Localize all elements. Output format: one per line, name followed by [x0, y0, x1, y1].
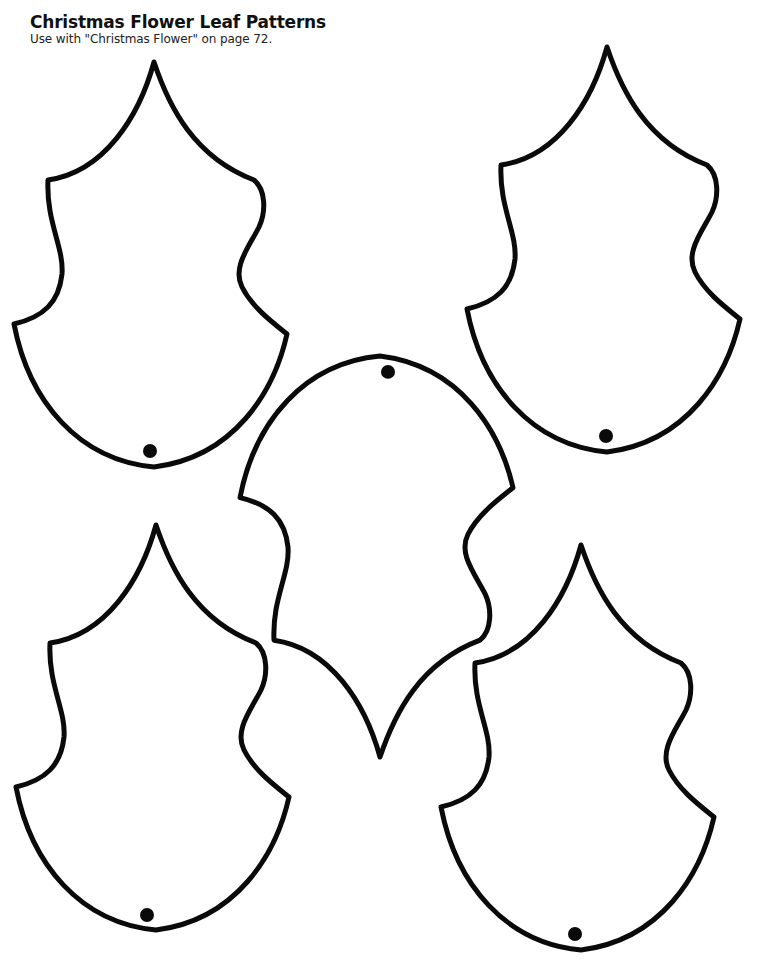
- hole-marker-icon: [140, 908, 154, 922]
- leaf-outline: [16, 525, 289, 930]
- leaf-center: [240, 356, 513, 757]
- hole-marker-icon: [568, 927, 582, 941]
- leaf-top-right: [467, 47, 740, 452]
- hole-marker-icon: [381, 365, 395, 379]
- leaf-outline: [467, 47, 740, 452]
- leaf-top-left: [14, 62, 287, 467]
- leaf-outline: [14, 62, 287, 467]
- hole-marker-icon: [143, 444, 157, 458]
- hole-marker-icon: [599, 429, 613, 443]
- leaf-outline: [240, 356, 513, 757]
- leaf-patterns-canvas: [0, 0, 761, 966]
- leaf-bottom-left: [16, 525, 289, 930]
